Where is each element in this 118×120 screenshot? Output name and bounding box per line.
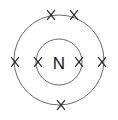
outer-electron-right-icon <box>98 57 106 67</box>
outer-electron-left-icon <box>11 57 19 67</box>
atom-diagram-svg: N <box>0 0 118 120</box>
outer-electron-top-right-icon <box>70 10 78 20</box>
inner-electron-left-icon <box>34 57 42 67</box>
element-symbol-label: N <box>53 54 65 73</box>
electron-shell-diagram: N <box>0 0 118 120</box>
